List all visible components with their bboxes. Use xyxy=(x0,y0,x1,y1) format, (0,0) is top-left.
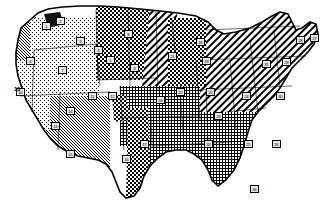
marker-label: 21 xyxy=(171,54,175,58)
map-marker-m26[interactable]: 26 xyxy=(272,140,281,148)
marker-label: 33 xyxy=(159,98,163,102)
map-marker-m03[interactable]: 3 xyxy=(76,37,85,45)
marker-label: 14 xyxy=(69,109,73,113)
map-marker-m07[interactable]: 7 xyxy=(58,66,67,74)
usa-thematic-map: 1234567891011121314151617181920212223242… xyxy=(0,0,332,215)
marker-label: 17 xyxy=(143,142,147,146)
map-marker-m18[interactable]: 18 xyxy=(196,38,205,46)
marker-label: 30 xyxy=(279,94,283,98)
map-marker-m14[interactable]: 14 xyxy=(66,107,75,115)
marker-label: 28 xyxy=(299,38,303,42)
map-marker-m33[interactable]: 33 xyxy=(156,96,165,104)
marker-label: 26 xyxy=(275,142,279,146)
marker-label: 31 xyxy=(265,62,269,66)
map-marker-m25[interactable]: 25 xyxy=(244,140,253,148)
map-marker-m15[interactable]: 15 xyxy=(66,150,75,158)
map-marker-m02[interactable]: 2 xyxy=(56,17,65,25)
marker-label: 10 xyxy=(19,90,23,94)
marker-label: 24 xyxy=(245,94,249,98)
map-marker-m22[interactable]: 22 xyxy=(176,88,185,96)
map-marker-m21[interactable]: 21 xyxy=(168,52,177,60)
map-marker-m12[interactable]: 12 xyxy=(108,92,117,100)
map-marker-m11[interactable]: 11 xyxy=(88,92,97,100)
map-marker-m31[interactable]: 31 xyxy=(262,60,271,68)
marker-label: 25 xyxy=(247,142,251,146)
marker-label: 12 xyxy=(111,94,115,98)
marker-label: 18 xyxy=(199,40,203,44)
marker-label: 29 xyxy=(285,60,289,64)
map-marker-m32[interactable]: 32 xyxy=(204,140,213,148)
map-marker-m24[interactable]: 24 xyxy=(242,92,251,100)
marker-label: 15 xyxy=(69,152,73,156)
map-marker-m19[interactable]: 19 xyxy=(202,57,211,65)
map-marker-m09[interactable]: 9 xyxy=(130,64,139,72)
map-marker-m23[interactable]: 23 xyxy=(214,112,223,120)
map-canvas xyxy=(0,0,332,215)
map-marker-m04[interactable]: 4 xyxy=(94,46,103,54)
map-marker-m16[interactable]: 16 xyxy=(122,155,131,163)
marker-label: 32 xyxy=(207,142,211,146)
map-marker-m34[interactable]: 34 xyxy=(250,185,259,193)
marker-label: 11 xyxy=(91,94,95,98)
marker-label: 13 xyxy=(54,124,58,128)
map-marker-m17[interactable]: 17 xyxy=(140,140,149,148)
marker-label: 16 xyxy=(125,157,129,161)
marker-label: 20 xyxy=(209,90,213,94)
map-marker-m13[interactable]: 13 xyxy=(51,122,60,130)
map-marker-m05[interactable]: 5 xyxy=(106,56,115,64)
marker-label: 34 xyxy=(253,187,257,191)
map-marker-m27[interactable]: 27 xyxy=(310,34,319,42)
map-marker-m20[interactable]: 20 xyxy=(206,88,215,96)
map-marker-m01[interactable]: 1 xyxy=(42,22,51,30)
map-marker-m30[interactable]: 30 xyxy=(276,92,285,100)
marker-label: 23 xyxy=(217,114,221,118)
marker-label: 27 xyxy=(313,36,317,40)
marker-label: 19 xyxy=(205,59,209,63)
marker-label: 22 xyxy=(179,90,183,94)
map-marker-m29[interactable]: 29 xyxy=(282,58,291,66)
map-marker-m06[interactable]: 6 xyxy=(26,57,35,65)
map-marker-m08[interactable]: 8 xyxy=(124,30,133,38)
map-marker-m28[interactable]: 28 xyxy=(296,36,305,44)
map-marker-m10[interactable]: 10 xyxy=(16,88,25,96)
